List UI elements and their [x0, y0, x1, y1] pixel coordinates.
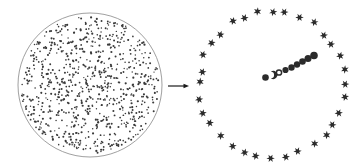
disc-dot — [100, 151, 102, 153]
disc-dot — [156, 98, 158, 100]
disc-dot — [115, 77, 117, 79]
disc-dot — [39, 42, 41, 44]
disc-dot — [96, 124, 98, 126]
disc-dot — [68, 133, 70, 135]
disc-dot — [81, 101, 83, 103]
disc-dot — [94, 67, 96, 69]
disc-dot — [101, 141, 103, 143]
disc-dot — [94, 69, 96, 71]
disc-dot — [125, 141, 127, 143]
disc-dot — [141, 111, 143, 113]
disc-dot — [107, 21, 109, 23]
disc-dot — [152, 99, 153, 100]
disc-dot — [118, 81, 120, 83]
disc-dot — [42, 111, 43, 112]
disc-dot — [85, 148, 87, 150]
disc-dot — [105, 27, 107, 29]
disc-dot — [88, 38, 89, 39]
disc-dot — [121, 123, 123, 125]
chain-filled-circle — [310, 52, 318, 60]
disc-dot — [141, 103, 143, 105]
disc-dot — [77, 72, 79, 74]
disc-dot — [113, 25, 115, 27]
disc-dot — [50, 72, 52, 74]
disc-dot — [133, 67, 135, 69]
disc-dot — [65, 53, 67, 55]
disc-dot — [110, 98, 111, 99]
disc-dot — [81, 99, 83, 101]
disc-dot — [116, 31, 117, 32]
disc-dot — [133, 95, 134, 96]
disc-dot — [124, 31, 126, 33]
disc-dot — [86, 87, 87, 88]
disc-dot — [102, 89, 104, 91]
disc-dot — [103, 63, 105, 65]
disc-dot — [130, 139, 132, 141]
disc-dot — [78, 69, 79, 70]
disc-dot — [147, 79, 149, 81]
disc-dot — [27, 81, 29, 83]
disc-dot — [75, 106, 76, 107]
disc-dot — [146, 96, 148, 98]
disc-dot — [42, 130, 43, 131]
disc-dot — [51, 136, 53, 138]
disc-dot — [130, 66, 132, 68]
disc-dot — [106, 126, 108, 128]
disc-dot — [105, 76, 107, 78]
disc-dot — [110, 77, 111, 78]
disc-dot — [33, 64, 35, 66]
disc-dot — [139, 64, 141, 66]
disc-dot — [72, 142, 73, 143]
disc-dot — [56, 134, 58, 136]
disc-dot — [145, 123, 147, 125]
disc-dot — [87, 76, 89, 78]
disc-dot — [41, 72, 43, 74]
disc-dot — [88, 89, 90, 91]
disc-dot — [94, 42, 96, 44]
disc-dot — [71, 49, 73, 51]
disc-dot — [112, 34, 114, 36]
disc-dot — [138, 81, 140, 83]
disc-dot — [129, 106, 131, 108]
disc-dot — [125, 82, 127, 84]
chain-filled-circle — [262, 74, 269, 81]
disc-dot — [117, 126, 119, 128]
disc-dot — [131, 102, 133, 104]
disc-dot — [44, 88, 46, 90]
disc-dot — [109, 103, 110, 104]
disc-dot — [141, 42, 143, 44]
disc-dot — [97, 152, 99, 154]
disc-dot — [105, 35, 107, 37]
disc-dot — [54, 73, 56, 75]
disc-dot — [83, 125, 85, 127]
disc-dot — [50, 37, 52, 39]
disc-dot — [80, 57, 82, 59]
disc-dot — [97, 145, 99, 147]
disc-dot — [111, 123, 113, 125]
disc-dot — [40, 123, 42, 125]
disc-dot — [132, 109, 134, 111]
disc-dot — [31, 50, 33, 52]
disc-dot — [86, 83, 88, 85]
disc-dot — [49, 79, 51, 81]
disc-dot — [27, 114, 29, 116]
disc-dot — [56, 78, 57, 79]
disc-dot — [91, 40, 93, 42]
disc-dot — [61, 34, 62, 35]
disc-dot — [71, 144, 73, 146]
disc-dot — [106, 119, 108, 121]
disc-dot — [142, 61, 144, 63]
disc-dot — [37, 104, 38, 105]
disc-dot — [80, 86, 82, 88]
disc-dot — [30, 119, 32, 121]
disc-dot — [88, 136, 90, 138]
disc-dot — [75, 116, 77, 118]
disc-dot — [39, 129, 41, 131]
disc-dot — [104, 82, 106, 84]
disc-dot — [109, 133, 111, 135]
disc-dot — [41, 63, 43, 65]
disc-dot — [49, 50, 51, 52]
disc-dot — [143, 57, 145, 59]
disc-dot — [145, 63, 147, 65]
disc-dot — [132, 84, 134, 86]
